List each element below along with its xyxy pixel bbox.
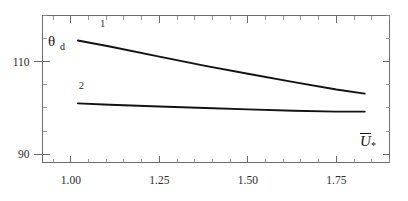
x-tick-label: 1.75 [326, 174, 346, 186]
y-axis-title-base: θ [48, 33, 55, 49]
x-tick-label: 1.50 [238, 174, 258, 186]
y-tick-label: 110 [13, 56, 30, 68]
line-chart: 1.001.251.501.75 90110 12 θ d U * [0, 0, 408, 201]
chart-container: 1.001.251.501.75 90110 12 θ d U * [0, 0, 408, 201]
y-axis-title-subscript: d [60, 41, 65, 52]
x-tick-label: 1.00 [61, 174, 81, 186]
y-tick-label: 90 [18, 148, 30, 160]
curve-label-2: 2 [79, 80, 84, 91]
x-tick-label: 1.25 [149, 174, 169, 186]
x-axis-title-subscript: * [371, 140, 376, 151]
curve-label-1: 1 [100, 18, 105, 29]
chart-background [0, 0, 408, 201]
